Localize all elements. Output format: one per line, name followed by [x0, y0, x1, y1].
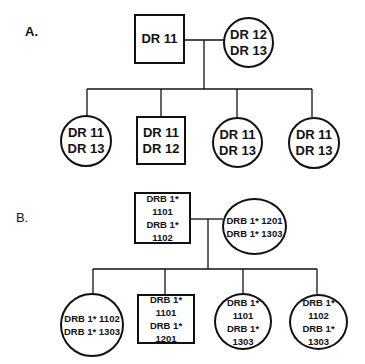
allele: DRB 1* 1303 — [64, 325, 120, 338]
panel-a-child-3-circle: DR 11 DR 13 — [212, 117, 263, 168]
panel-b-father-square: DRB 1* 1101 DRB 1* 1102 — [134, 192, 191, 244]
panel-label-b: B. — [16, 210, 28, 225]
panel-label-a: A. — [25, 24, 38, 39]
allele: DR 11 — [68, 125, 104, 141]
allele: DR 13 — [219, 143, 256, 159]
allele: DRB 1* 1303 — [216, 322, 270, 348]
allele: DRB 1* 1201 — [139, 319, 193, 345]
allele: DRB 1* 1102 — [64, 312, 119, 325]
panel-a-father-square: DR 11 — [134, 14, 185, 64]
allele: DRB 1* 1101 — [216, 296, 270, 322]
panel-b-child-1-circle: DRB 1* 1102 DRB 1* 1303 — [60, 293, 124, 357]
panel-a-child-4-circle: DR 11 DR 13 — [288, 117, 340, 169]
allele: DR 12 — [230, 27, 267, 43]
allele: DRB 1* 1101 — [139, 293, 193, 319]
allele: DR 11 — [141, 31, 177, 47]
allele: DR 13 — [68, 141, 105, 157]
panel-b-child-4-circle: DRB 1* 1102 DRB 1* 1303 — [289, 294, 348, 350]
panel-b-child-3-circle: DRB 1* 1101 DRB 1* 1303 — [214, 293, 272, 350]
panel-b-mother-circle: DRB 1* 1201 DRB 1* 1303 — [222, 198, 287, 255]
allele: DRB 1* 1102 — [136, 218, 189, 244]
panel-a-child-2-square: DR 11 DR 12 — [136, 116, 186, 165]
allele: DR 13 — [230, 43, 267, 59]
allele: DRB 1* 1303 — [227, 227, 283, 240]
panel-a-child-1-circle: DR 11 DR 13 — [60, 115, 112, 167]
allele: DRB 1* 1101 — [136, 192, 189, 218]
allele: DR 11 — [219, 127, 255, 143]
panel-a-mother-circle: DR 12 DR 13 — [223, 17, 274, 68]
allele: DR 12 — [143, 141, 180, 157]
allele: DRB 1* 1201 — [227, 214, 283, 227]
allele: DR 11 — [143, 125, 179, 141]
allele: DRB 1* 1102 — [291, 296, 346, 322]
allele: DR 13 — [296, 143, 333, 159]
allele: DRB 1* 1303 — [291, 322, 346, 348]
panel-b-child-2-square: DRB 1* 1101 DRB 1* 1201 — [137, 294, 195, 344]
allele: DR 11 — [296, 127, 332, 143]
